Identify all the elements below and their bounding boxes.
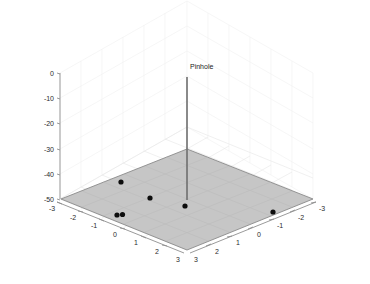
pinhole-annotation-label: Pinhole	[190, 63, 213, 70]
y-tick-label: 0	[257, 231, 261, 238]
y-tick-label: -3	[319, 205, 325, 212]
z-tick-label: -20	[44, 120, 54, 127]
x-tick-label: -2	[70, 214, 76, 221]
y-tick-label: 3	[194, 256, 198, 263]
x-tick-label: -1	[91, 222, 97, 229]
z-tick-label: -50	[44, 196, 54, 203]
z-tick-label: -40	[44, 171, 54, 178]
z-tick-label: -30	[44, 146, 54, 153]
y-tick-label: -2	[298, 214, 304, 221]
data-point	[147, 195, 152, 200]
figure-canvas: 0 -10 -20 -30 -40 -50 -3 -2 -1 0 1 2 3 3…	[0, 0, 370, 284]
z-tick-label: 0	[50, 70, 54, 77]
data-point	[114, 212, 119, 217]
x-tick-label: 0	[113, 231, 117, 238]
data-point	[270, 209, 275, 214]
z-tick-label: -10	[44, 95, 54, 102]
y-tick-label: -1	[277, 222, 283, 229]
data-point	[182, 203, 187, 208]
x-tick-label: -3	[49, 205, 55, 212]
y-tick-label: 1	[236, 239, 240, 246]
x-tick-label: 3	[176, 256, 180, 263]
y-tick-label: 2	[215, 248, 219, 255]
plot-3d-svg: 0 -10 -20 -30 -40 -50 -3 -2 -1 0 1 2 3 3…	[0, 0, 370, 284]
x-tick-label: 1	[134, 239, 138, 246]
data-point	[120, 212, 125, 217]
x-tick-label: 2	[155, 248, 159, 255]
data-point	[118, 179, 123, 184]
